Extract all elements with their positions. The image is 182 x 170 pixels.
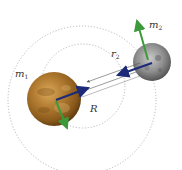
moon-m2 — [133, 43, 171, 81]
label-m1: m1 — [15, 68, 28, 80]
planet-m1 — [27, 72, 81, 126]
two-body-diagram: m2 m1 r2 R — [0, 0, 182, 170]
label-R: R — [89, 103, 98, 114]
label-m2: m2 — [149, 19, 162, 31]
r-line-bottom — [82, 76, 140, 97]
label-r2: r2 — [111, 48, 120, 60]
r2-line-lower — [78, 72, 136, 93]
r2-line-upper — [87, 63, 140, 82]
